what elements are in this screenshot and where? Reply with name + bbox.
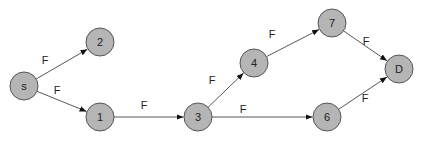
node-2: 2: [86, 28, 114, 56]
node-label: 3: [195, 111, 201, 123]
nodes-layer: s213476D: [10, 9, 413, 131]
edge-label: F: [141, 99, 148, 111]
edge-label: F: [42, 54, 49, 66]
edge-s-to-1: [37, 91, 87, 111]
node-7: 7: [318, 9, 346, 37]
network-flow-diagram: FFFFFFFF s213476D: [0, 0, 425, 141]
node-label: 2: [97, 36, 103, 48]
node-3: 3: [184, 103, 212, 131]
node-s: s: [10, 72, 38, 100]
node-label: s: [21, 80, 27, 92]
node-1: 1: [86, 103, 114, 131]
node-label: 6: [324, 111, 330, 123]
edge-label: F: [363, 35, 370, 47]
node-4: 4: [240, 49, 268, 77]
edge-label: F: [209, 74, 216, 86]
node-label: 4: [251, 57, 257, 69]
node-label: 1: [97, 111, 103, 123]
node-label: 7: [329, 17, 335, 29]
edge-arrow: [37, 91, 87, 111]
node-label: D: [395, 63, 403, 75]
node-D: D: [385, 55, 413, 83]
edge-label: F: [240, 103, 247, 115]
edge-label: F: [362, 92, 369, 104]
edge-label: F: [54, 84, 61, 96]
node-6: 6: [313, 103, 341, 131]
edge-label: F: [269, 28, 276, 40]
